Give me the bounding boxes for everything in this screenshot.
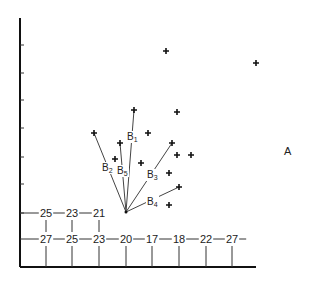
grid-value: 18 xyxy=(173,233,185,245)
plus-marker-icon xyxy=(166,202,172,208)
plus-marker-icon xyxy=(174,109,180,115)
grid-value: 25 xyxy=(66,233,78,245)
plus-marker-icon xyxy=(169,140,175,146)
grid-value: 22 xyxy=(200,233,212,245)
vector-line xyxy=(126,110,134,212)
plus-marker-icon xyxy=(131,107,137,113)
grid-row: 252321 xyxy=(20,207,105,232)
plus-marker-icon xyxy=(176,184,182,190)
vector-diagram: 2523212725232017182227 B1B2B3B4B5 A xyxy=(0,0,309,284)
grid-value: 23 xyxy=(93,233,105,245)
region-label-a: A xyxy=(284,145,292,157)
plus-marker-icon xyxy=(163,48,169,54)
plus-marker-icon xyxy=(112,156,118,162)
vector-b4: B4 xyxy=(126,184,182,212)
grid-value: 20 xyxy=(120,233,132,245)
value-grid: 2523212725232017182227 xyxy=(20,207,246,267)
vector-origin xyxy=(125,211,128,214)
grid-value: 25 xyxy=(40,207,52,219)
grid-value: 27 xyxy=(40,233,52,245)
grid-value: 27 xyxy=(226,233,238,245)
grid-value: 23 xyxy=(66,207,78,219)
plus-marker-icon xyxy=(174,152,180,158)
data-points xyxy=(112,48,259,208)
vector-line xyxy=(120,143,126,212)
grid-value: 17 xyxy=(146,233,158,245)
plus-marker-icon xyxy=(166,170,172,176)
plus-marker-icon xyxy=(91,130,97,136)
grid-value: 21 xyxy=(93,207,105,219)
plus-marker-icon xyxy=(138,160,144,166)
vectors: B1B2B3B4B5 xyxy=(91,107,182,214)
grid-row: 2725232017182227 xyxy=(20,233,246,267)
diagram-canvas: 2523212725232017182227 B1B2B3B4B5 A xyxy=(0,0,309,284)
plus-marker-icon xyxy=(117,140,123,146)
plus-marker-icon xyxy=(253,60,259,66)
plus-marker-icon xyxy=(145,130,151,136)
plus-marker-icon xyxy=(188,152,194,158)
